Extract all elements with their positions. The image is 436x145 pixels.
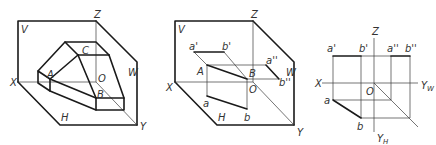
- solid-edge: [50, 91, 96, 110]
- projector: [194, 52, 207, 65]
- label-x: X: [314, 78, 323, 89]
- label-x: X: [165, 82, 174, 93]
- label-point-c: C: [82, 45, 89, 56]
- label-a-prime: a': [189, 41, 198, 52]
- label-b-prime: b': [222, 41, 231, 52]
- label-o: O: [98, 73, 106, 84]
- label-v: V: [178, 24, 186, 35]
- label-y: Y: [140, 121, 147, 132]
- h-plane-edge: [18, 82, 137, 125]
- label-z: Z: [93, 9, 102, 20]
- label-a-prime: a': [327, 43, 336, 54]
- label-v: V: [21, 24, 29, 35]
- label-b-dprime: b'': [405, 43, 417, 54]
- label-x: X: [9, 77, 18, 88]
- figure-line-pictorial: V Z W X H Y O A B a' b' a'' b'' a b: [165, 9, 304, 138]
- label-point-b: B: [249, 68, 256, 79]
- label-o: O: [366, 86, 374, 97]
- label-b: b: [244, 112, 250, 123]
- projection-ab: [333, 100, 361, 118]
- label-b: b: [357, 121, 363, 132]
- label-b-prime: b': [359, 43, 368, 54]
- solid-edge: [109, 55, 124, 98]
- label-y: Y: [297, 127, 304, 138]
- label-a: a: [324, 95, 330, 106]
- figure-orthographic: Z X O YW YH a' b' a'' b'' a b: [314, 26, 435, 145]
- projection-ab: [207, 96, 247, 109]
- h-plane-edge: [175, 82, 294, 125]
- solid-edge: [65, 42, 78, 55]
- label-point-b: B: [97, 89, 104, 100]
- projection-diagrams: V Z W X H Y O A B C V Z W X H Y O: [0, 0, 436, 145]
- label-yw: YW: [421, 80, 435, 93]
- label-w: W: [128, 67, 139, 78]
- label-point-a: A: [46, 69, 54, 80]
- label-a-dprime: a'': [387, 43, 399, 54]
- label-o: O: [249, 84, 257, 95]
- solid-top-edge: [38, 42, 109, 71]
- label-z: Z: [250, 9, 259, 20]
- label-b-dprime: b'': [279, 77, 291, 88]
- label-z: Z: [371, 26, 380, 37]
- label-h: H: [218, 112, 226, 123]
- label-a-dprime: a'': [266, 55, 278, 66]
- projection-a-dprime-b-dprime: [266, 65, 279, 79]
- solid-edge: [50, 55, 78, 79]
- label-a: a: [203, 98, 209, 109]
- label-point-a: A: [196, 66, 204, 77]
- y-axis: [253, 82, 294, 125]
- label-yh: YH: [377, 133, 389, 145]
- figure-solid: V Z W X H Y O A B C: [9, 9, 147, 132]
- label-h: H: [61, 112, 69, 123]
- bisector-45: [374, 83, 418, 127]
